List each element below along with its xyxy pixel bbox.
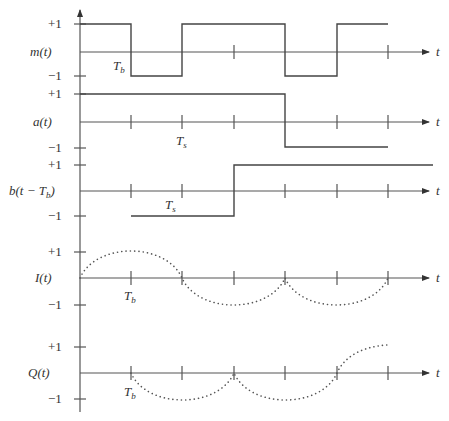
signal-label-m: m(t) [30, 44, 52, 59]
panel-m: t +1 −1 m(t) Tb [30, 16, 440, 83]
axis-t-label: t [436, 365, 440, 380]
panel-b: t +1 −1 b(t − Tb) Ts [9, 157, 440, 223]
signal-label-I: I(t) [34, 270, 52, 285]
axis-t-label: t [436, 183, 440, 198]
axis-t-label: t [436, 270, 440, 285]
panel-Q: t +1 −1 Q(t) Tb [28, 339, 440, 406]
ts-annotation: Ts [165, 197, 176, 214]
tb-annotation: Tb [124, 384, 136, 401]
axis-t-label: t [436, 114, 440, 129]
plus-one-label: +1 [48, 86, 62, 101]
tb-annotation: Tb [113, 58, 125, 75]
signal-label-a: a(t) [33, 114, 52, 129]
plus-one-label: +1 [48, 16, 62, 31]
minus-one-label: −1 [48, 297, 62, 312]
plus-one-label: +1 [48, 157, 62, 172]
signal-label-Q: Q(t) [28, 365, 50, 380]
tb-annotation: Tb [124, 288, 136, 305]
timing-diagram: t +1 −1 m(t) Tb t +1 −1 a(t) Ts t +1 −1 … [0, 0, 449, 421]
ts-annotation: Ts [176, 133, 187, 150]
signal-label-b: b(t − Tb) [9, 183, 55, 200]
panel-I: t +1 −1 I(t) Tb [34, 244, 440, 312]
minus-one-label: −1 [48, 68, 62, 83]
minus-one-label: −1 [48, 208, 62, 223]
minus-one-label: −1 [48, 140, 62, 155]
axis-t-label: t [436, 44, 440, 59]
panel-a: t +1 −1 a(t) Ts [33, 86, 440, 155]
plus-one-label: +1 [48, 339, 62, 354]
minus-one-label: −1 [48, 391, 62, 406]
plus-one-label: +1 [48, 244, 62, 259]
